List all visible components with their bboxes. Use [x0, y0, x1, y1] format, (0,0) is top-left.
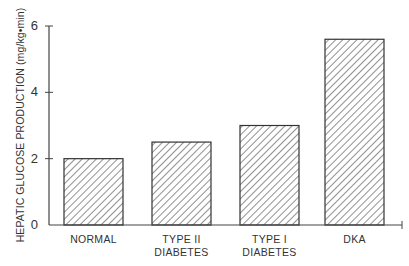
- x-tick-label: TYPE IIDIABETES: [137, 233, 227, 259]
- y-tick-label: 6: [18, 18, 38, 33]
- bar-dka: [325, 39, 384, 225]
- x-tick-label: TYPE IDIABETES: [225, 233, 315, 259]
- plot-area: [0, 0, 409, 266]
- bar-normal: [64, 159, 123, 225]
- x-tick-label: NORMAL: [49, 233, 139, 246]
- bar-type-ii-diabetes: [152, 142, 211, 225]
- x-tick-label: DKA: [310, 233, 400, 246]
- bar-type-i-diabetes: [240, 126, 299, 226]
- bar-chart: HEPATIC GLUCOSE PRODUCTION (mg/kg•min) 0…: [0, 0, 409, 266]
- y-tick-label: 0: [18, 217, 38, 232]
- y-tick-label: 4: [18, 84, 38, 99]
- y-tick-label: 2: [18, 151, 38, 166]
